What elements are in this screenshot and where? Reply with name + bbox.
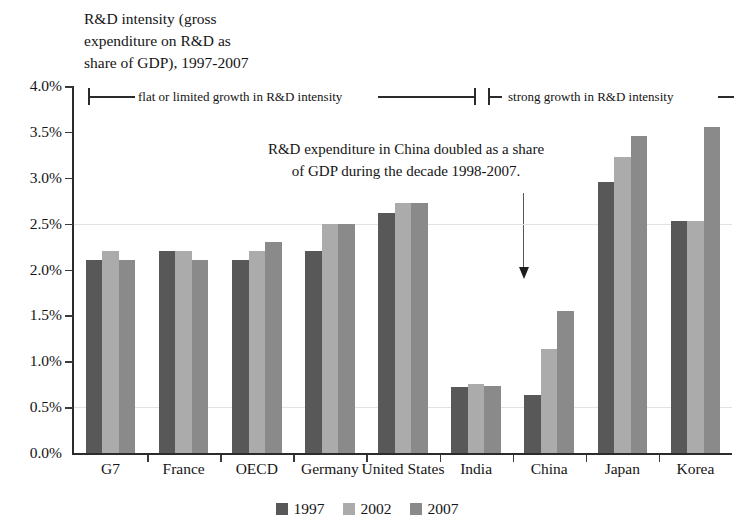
bar-group <box>305 86 355 453</box>
bar-korea-2007 <box>704 127 721 453</box>
x-label-korea: Korea <box>653 459 734 478</box>
x-axis-line <box>72 453 732 455</box>
bar-oecd-2002 <box>249 251 266 453</box>
bar-group <box>159 86 209 453</box>
bar-germany-2002 <box>322 224 339 453</box>
bar-japan-2007 <box>631 136 648 453</box>
chart-title: R&D intensity (gross expenditure on R&D … <box>84 8 384 74</box>
y-tick-mark <box>65 132 73 134</box>
y-tick-label: 1.0% <box>4 353 62 369</box>
bar-g7-2007 <box>119 260 136 453</box>
bar-oecd-2007 <box>265 242 282 453</box>
x-tick-mark <box>513 455 515 462</box>
legend-swatch-1997 <box>276 503 288 515</box>
legend-item-2007: 2007 <box>410 500 459 518</box>
legend-label: 2002 <box>361 500 392 518</box>
bar-india-2002 <box>468 384 485 453</box>
bar-group <box>232 86 282 453</box>
bar-oecd-1997 <box>232 260 249 453</box>
y-tick-mark <box>65 315 73 317</box>
bar-united-states-2002 <box>395 203 412 453</box>
x-tick-mark <box>659 455 661 462</box>
legend-swatch-2007 <box>410 503 422 515</box>
bar-group <box>598 86 648 453</box>
y-tick-mark <box>65 86 73 88</box>
bar-united-states-1997 <box>378 213 395 453</box>
x-tick-mark <box>586 455 588 462</box>
bar-china-2002 <box>541 349 558 453</box>
bar-g7-2002 <box>102 251 119 453</box>
x-tick-mark <box>147 455 149 462</box>
chart-legend: 199720022007 <box>0 500 734 518</box>
bar-korea-1997 <box>671 221 688 453</box>
bar-china-1997 <box>524 395 541 453</box>
y-tick-label: 3.5% <box>4 124 62 140</box>
bar-france-1997 <box>159 251 176 453</box>
legend-label: 1997 <box>294 500 325 518</box>
legend-item-2002: 2002 <box>343 500 392 518</box>
plot-area <box>74 86 732 453</box>
bar-group <box>86 86 136 453</box>
rd-intensity-bar-chart: R&D intensity (gross expenditure on R&D … <box>0 0 734 521</box>
bar-france-2007 <box>192 260 209 453</box>
bar-korea-2002 <box>687 221 704 453</box>
legend-item-1997: 1997 <box>276 500 325 518</box>
y-tick-mark <box>65 224 73 226</box>
bar-group <box>451 86 501 453</box>
bar-japan-2002 <box>614 157 631 453</box>
y-tick-label: 0.5% <box>4 399 62 415</box>
bar-germany-1997 <box>305 251 322 453</box>
x-tick-mark <box>293 455 295 462</box>
legend-label: 2007 <box>428 500 459 518</box>
bar-group <box>378 86 428 453</box>
y-tick-label: 4.0% <box>4 78 62 94</box>
y-tick-label: 3.0% <box>4 170 62 186</box>
y-axis-labels: 4.0%3.5%3.0%2.5%2.0%1.5%1.0%0.5%0.0% <box>0 78 62 460</box>
bar-china-2007 <box>557 311 574 453</box>
x-tick-mark <box>440 455 442 462</box>
y-tick-label: 2.0% <box>4 262 62 278</box>
y-tick-label: 0.0% <box>4 445 62 461</box>
y-tick-mark <box>65 361 73 363</box>
legend-swatch-2002 <box>343 503 355 515</box>
bar-united-states-2007 <box>411 203 428 453</box>
bar-group <box>524 86 574 453</box>
bar-germany-2007 <box>338 224 355 453</box>
y-tick-mark <box>65 270 73 272</box>
y-tick-mark <box>65 407 73 409</box>
y-tick-mark <box>65 178 73 180</box>
bar-g7-1997 <box>86 260 103 453</box>
y-tick-label: 2.5% <box>4 216 62 232</box>
bar-group <box>671 86 721 453</box>
bar-india-1997 <box>451 387 468 453</box>
bar-france-2002 <box>175 251 192 453</box>
x-tick-mark <box>220 455 222 462</box>
bar-india-2007 <box>484 386 501 453</box>
bar-japan-1997 <box>598 182 615 453</box>
x-tick-mark <box>366 455 368 462</box>
y-tick-label: 1.5% <box>4 307 62 323</box>
